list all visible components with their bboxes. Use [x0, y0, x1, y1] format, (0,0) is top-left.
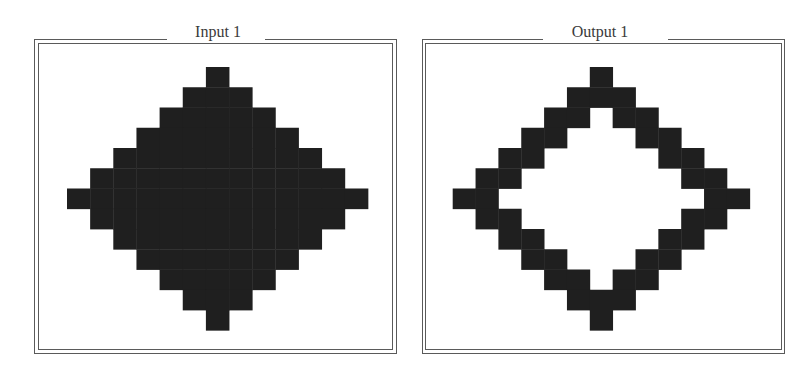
- grid-cell-filled: [681, 168, 704, 189]
- grid-cell-filled: [636, 128, 659, 149]
- grid-cell-filled: [567, 290, 590, 311]
- grid-cell-filled: [613, 87, 636, 108]
- grid-cell-filled: [544, 128, 567, 149]
- grid-cell-filled: [658, 249, 681, 270]
- grid-cell-filled: [567, 270, 590, 291]
- grid-cell-filled: [498, 229, 521, 250]
- grid-cell-filled: [613, 290, 636, 311]
- grid-cell-filled: [476, 209, 499, 230]
- grid-cell-filled: [636, 249, 659, 270]
- grid-cell-filled: [704, 168, 727, 189]
- grid-cell-filled: [613, 108, 636, 129]
- grid-cell-filled: [567, 108, 590, 129]
- grid-cell-filled: [658, 229, 681, 250]
- grid-cell-filled: [521, 229, 544, 250]
- grid-cell-filled: [521, 128, 544, 149]
- grid-cell-filled: [590, 310, 613, 331]
- grid-cell-filled: [544, 108, 567, 129]
- grid-cell-filled: [476, 189, 499, 210]
- grid-cell-filled: [521, 249, 544, 270]
- grid-cell-filled: [544, 249, 567, 270]
- grid-cell-filled: [681, 209, 704, 230]
- grid-cell-filled: [636, 270, 659, 291]
- grid-cell-filled: [590, 87, 613, 108]
- grid-cell-filled: [590, 67, 613, 88]
- grid-cell-filled: [498, 148, 521, 169]
- grid-cell-filled: [681, 148, 704, 169]
- grid-cell-filled: [704, 209, 727, 230]
- grid-cell-filled: [544, 270, 567, 291]
- grid-cell-filled: [658, 148, 681, 169]
- grid-cell-filled: [613, 270, 636, 291]
- grid-cell-filled: [498, 209, 521, 230]
- grid-cell-filled: [704, 189, 727, 210]
- grid-cell-filled: [727, 189, 750, 210]
- grid-cell-filled: [498, 168, 521, 189]
- grid-cell-filled: [681, 229, 704, 250]
- grid-cell-filled: [567, 87, 590, 108]
- grid-cell-filled: [658, 128, 681, 149]
- grid-cell-filled: [636, 108, 659, 129]
- output-grid: [0, 0, 808, 379]
- grid-cell-filled: [453, 189, 476, 210]
- grid-cell-filled: [590, 290, 613, 311]
- grid-cell-filled: [476, 168, 499, 189]
- grid-cell-filled: [521, 148, 544, 169]
